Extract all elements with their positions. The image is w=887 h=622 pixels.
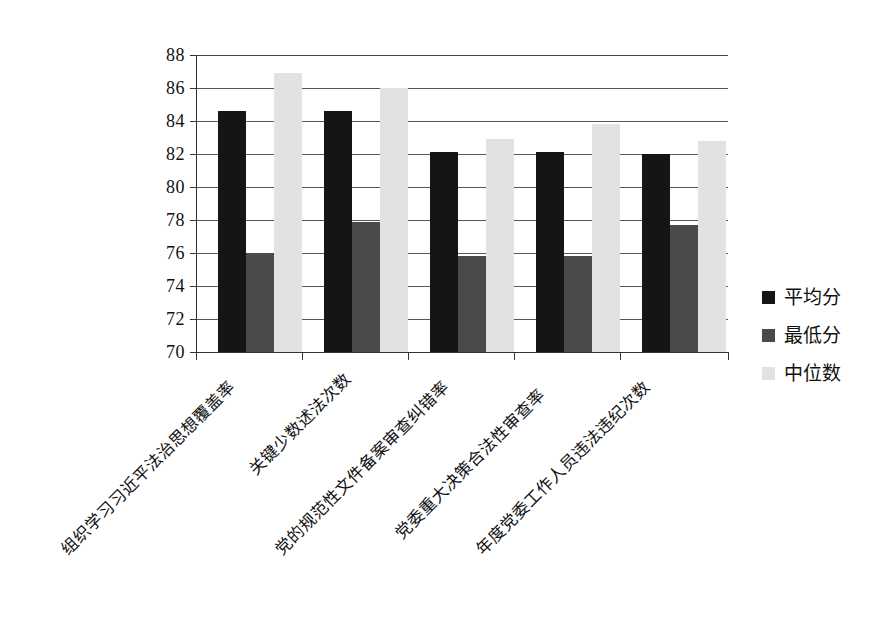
x-axis-category-label: 党的规范性文件备案审查纠错率 — [272, 378, 452, 558]
bar-min-5 — [670, 225, 698, 352]
legend-swatch-icon — [762, 291, 775, 304]
bar-min-3 — [458, 256, 486, 352]
bar-chart: 88 86 84 82 80 78 76 74 72 70 — [0, 0, 887, 622]
bar-avg-3 — [430, 152, 458, 352]
y-axis-label: 74 — [145, 277, 185, 295]
y-axis-labels: 88 86 84 82 80 78 76 74 72 70 — [140, 0, 185, 622]
x-axis-category-label: 年度党委工作人员违法违纪次数 — [473, 378, 653, 558]
legend-swatch-icon — [762, 329, 775, 342]
y-axis-label: 72 — [145, 310, 185, 328]
bar-min-4 — [564, 256, 592, 352]
bar-median-3 — [486, 139, 514, 352]
legend-swatch-icon — [762, 367, 775, 380]
legend-label: 中位数 — [784, 364, 841, 383]
y-axis-label: 78 — [145, 211, 185, 229]
bar-avg-1 — [218, 111, 246, 352]
x-axis-category-label: 关键少数述法次数 — [246, 370, 354, 478]
x-axis-line — [196, 352, 728, 353]
legend-label: 最低分 — [784, 326, 841, 345]
legend-item-average: 平均分 — [762, 278, 877, 316]
y-axis-label: 84 — [145, 112, 185, 130]
bar-min-2 — [352, 222, 380, 352]
legend-label: 平均分 — [784, 288, 841, 307]
x-axis-tick — [196, 352, 197, 360]
bar-median-2 — [380, 88, 408, 352]
x-axis-tick — [302, 352, 303, 360]
bar-median-5 — [698, 141, 726, 352]
y-axis-label: 88 — [145, 46, 185, 64]
bar-avg-4 — [536, 152, 564, 352]
legend-item-median: 中位数 — [762, 354, 877, 392]
x-axis-tick — [408, 352, 409, 360]
x-axis-tick — [514, 352, 515, 360]
bar-avg-2 — [324, 111, 352, 352]
chart-legend: 平均分 最低分 中位数 — [762, 278, 877, 392]
y-axis-label: 80 — [145, 178, 185, 196]
bar-min-1 — [246, 253, 274, 352]
y-axis-line — [196, 55, 197, 352]
legend-item-minimum: 最低分 — [762, 316, 877, 354]
bar-median-1 — [274, 73, 302, 352]
y-axis-label: 86 — [145, 79, 185, 97]
x-axis-tick — [728, 352, 729, 360]
bar-avg-5 — [642, 154, 670, 352]
y-axis-label: 76 — [145, 244, 185, 262]
bar-median-4 — [592, 124, 620, 352]
plot-area — [196, 55, 728, 352]
x-axis-tick — [620, 352, 621, 360]
y-axis-label: 82 — [145, 145, 185, 163]
gridline — [196, 55, 728, 56]
y-axis-label: 70 — [145, 343, 185, 361]
